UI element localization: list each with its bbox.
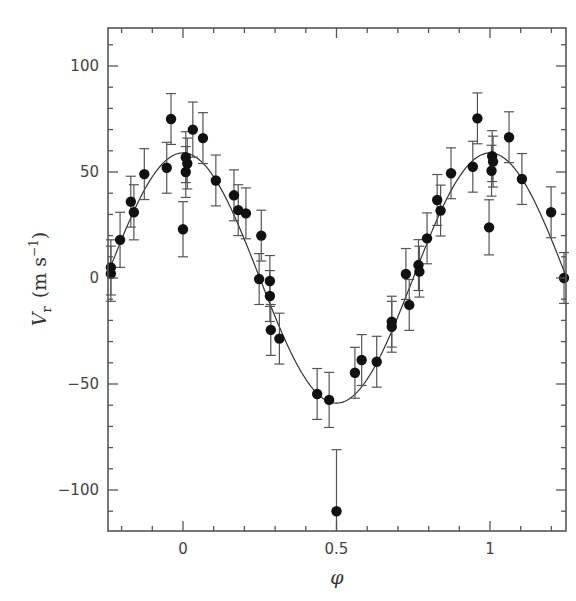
- data-point: [166, 114, 176, 124]
- fit-curve: [108, 153, 567, 403]
- data-point: [387, 322, 397, 332]
- y-axis-units: (m s: [28, 257, 50, 298]
- y-tick-labels: −100−50050100: [58, 57, 99, 499]
- data-point: [404, 300, 414, 310]
- data-point: [162, 163, 172, 173]
- data-point: [401, 269, 411, 279]
- data-point: [265, 291, 275, 301]
- data-point: [139, 169, 149, 179]
- fit-curve-line: [108, 153, 567, 403]
- error-bar: [332, 450, 342, 531]
- data-point: [324, 395, 334, 405]
- data-point: [372, 357, 382, 367]
- data-point: [422, 233, 432, 243]
- data-point: [432, 195, 442, 205]
- data-point: [129, 207, 139, 217]
- data-point: [254, 274, 264, 284]
- x-tick-labels: 00.51: [178, 540, 495, 558]
- y-tick-label: −50: [67, 375, 99, 393]
- data-point: [126, 196, 136, 206]
- y-axis-subscript: r: [39, 305, 54, 312]
- error-bars: [106, 93, 569, 531]
- data-point: [265, 276, 275, 286]
- x-tick-label: 0.5: [325, 540, 349, 558]
- data-point: [211, 175, 221, 185]
- y-axis-exponent: −1: [27, 239, 41, 257]
- svg-text:Vr(m s−1): Vr(m s−1): [27, 232, 54, 326]
- data-point: [546, 207, 556, 217]
- data-point: [504, 132, 514, 142]
- data-point: [181, 167, 191, 177]
- data-point: [274, 333, 284, 343]
- radial-velocity-chart: 00.51 −100−50050100 φ Vr(m s−1): [0, 0, 576, 601]
- y-axis-title: Vr(m s−1): [27, 232, 54, 326]
- data-point: [468, 162, 478, 172]
- y-axis-close-paren: ): [28, 232, 50, 239]
- data-point: [229, 190, 239, 200]
- data-point: [472, 113, 482, 123]
- y-tick-label: 100: [70, 57, 99, 75]
- data-point: [241, 208, 251, 218]
- x-tick-label: 1: [485, 540, 495, 558]
- data-point: [446, 168, 456, 178]
- data-point: [486, 166, 496, 176]
- data-points: [106, 113, 570, 516]
- data-point: [488, 156, 498, 166]
- x-tick-label: 0: [178, 540, 188, 558]
- data-point: [435, 205, 445, 215]
- y-tick-label: 0: [89, 269, 99, 287]
- y-tick-label: 50: [80, 163, 99, 181]
- data-point: [331, 506, 341, 516]
- data-point: [517, 174, 527, 184]
- data-point: [350, 368, 360, 378]
- data-point: [312, 389, 322, 399]
- data-point: [266, 325, 276, 335]
- x-axis-title: φ: [330, 566, 344, 588]
- data-point: [356, 355, 366, 365]
- y-tick-label: −100: [58, 481, 99, 499]
- data-point: [484, 222, 494, 232]
- data-point: [188, 124, 198, 134]
- data-point: [414, 266, 424, 276]
- data-point: [256, 230, 266, 240]
- data-point: [198, 133, 208, 143]
- data-point: [115, 235, 125, 245]
- data-point: [178, 224, 188, 234]
